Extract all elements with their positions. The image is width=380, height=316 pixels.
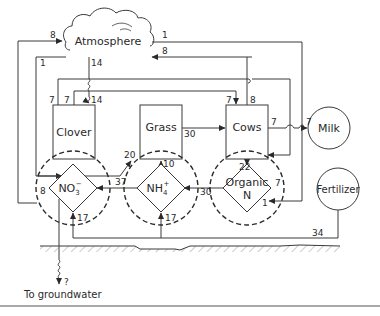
fertilizer-label: Fertilizer <box>316 184 360 195</box>
organic-n-label-2: N <box>243 189 251 202</box>
organic-n-label-1: Organic <box>226 176 269 189</box>
svg-text:37: 37 <box>115 177 126 187</box>
ammonium-label: NH <box>147 182 164 195</box>
nitrogen-cycle-diagram: Atmosphere <box>0 0 380 316</box>
milk-node: Milk <box>308 107 350 149</box>
svg-text:7: 7 <box>275 178 281 188</box>
svg-text:1: 1 <box>40 58 46 68</box>
svg-text:7: 7 <box>49 95 55 105</box>
nitrate-label: NO <box>58 182 75 195</box>
svg-text:8: 8 <box>162 46 168 56</box>
cows-label: Cows <box>232 121 261 134</box>
svg-text:1: 1 <box>162 30 168 40</box>
svg-text:34: 34 <box>312 228 324 238</box>
svg-text:22: 22 <box>239 162 250 172</box>
atmosphere-label: Atmosphere <box>75 35 142 48</box>
svg-text:8: 8 <box>40 186 46 196</box>
milk-label: Milk <box>318 122 341 135</box>
grass-node: Grass <box>140 105 182 159</box>
svg-text:NO3−: NO3− <box>58 180 81 197</box>
atmosphere-node: Atmosphere <box>64 8 154 50</box>
groundwater-label: To groundwater <box>23 289 102 300</box>
svg-text:30: 30 <box>184 129 196 139</box>
svg-text:7: 7 <box>226 95 232 105</box>
fertilizer-node: Fertilizer <box>316 168 360 210</box>
svg-text:30: 30 <box>200 187 212 197</box>
svg-text:8: 8 <box>50 30 56 40</box>
svg-text:7: 7 <box>271 117 277 127</box>
clover-label: Clover <box>56 126 92 139</box>
svg-text:NH4+: NH4+ <box>147 180 170 197</box>
svg-text:17: 17 <box>165 213 176 223</box>
svg-text:14: 14 <box>91 95 103 105</box>
clover-node: Clover <box>53 105 95 159</box>
svg-text:10: 10 <box>163 159 175 169</box>
svg-text:1: 1 <box>262 198 268 208</box>
svg-text:20: 20 <box>124 150 136 160</box>
soil-surface <box>40 245 340 252</box>
svg-text:7: 7 <box>64 95 70 105</box>
svg-text:8: 8 <box>250 95 256 105</box>
svg-text:17: 17 <box>77 213 88 223</box>
svg-text:?: ? <box>64 277 69 287</box>
grass-label: Grass <box>145 121 177 134</box>
svg-text:14: 14 <box>91 58 103 68</box>
svg-text:7: 7 <box>306 117 312 127</box>
cows-node: Cows <box>226 105 268 159</box>
